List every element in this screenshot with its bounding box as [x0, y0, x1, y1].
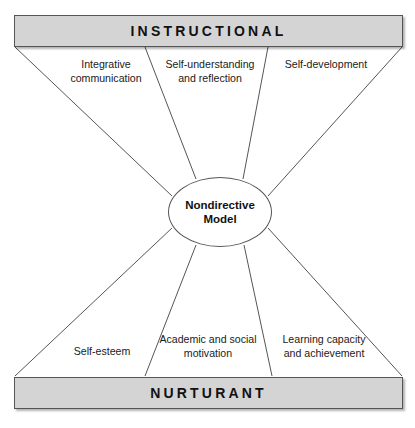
effect-label-academic-and-social-motivation: Academic and social motivation: [148, 333, 268, 360]
nondirective-model-node: Nondirective Model: [168, 177, 272, 247]
nondirective-model-label: Nondirective Model: [185, 198, 255, 226]
nondirective-model-diagram: INSTRUCTIONAL NURTURANT Nondirective Mod…: [0, 0, 415, 428]
nurturant-bar: NURTURANT: [14, 377, 403, 409]
effect-label-self-esteem: Self-esteem: [54, 345, 150, 359]
instructional-bar: INSTRUCTIONAL: [14, 15, 403, 47]
nurturant-bar-label: NURTURANT: [150, 386, 267, 400]
instructional-bar-label: INSTRUCTIONAL: [131, 24, 287, 38]
effect-label-learning-capacity-and-achievement: Learning capacity and achievement: [268, 333, 380, 360]
effect-label-integrative-communication: Integrative communication: [58, 58, 154, 85]
effect-label-self-understanding-and-reflection: Self-understanding and reflection: [154, 58, 266, 85]
effect-label-self-development: Self-development: [272, 58, 380, 72]
